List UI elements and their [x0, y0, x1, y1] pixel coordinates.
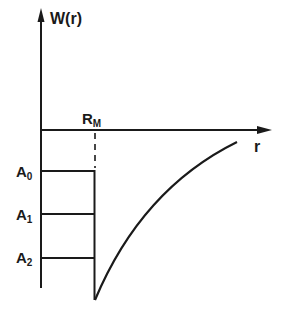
a1-label: A1 — [16, 206, 33, 225]
potential-well-diagram: W(r) r RM A0 A1 A2 — [0, 0, 282, 313]
y-axis-label: W(r) — [50, 10, 82, 27]
potential-curve — [95, 142, 237, 300]
rm-label: RM — [82, 110, 101, 129]
a2-label: A2 — [16, 249, 33, 268]
a0-label: A0 — [16, 163, 33, 182]
y-axis-arrow-icon — [38, 8, 45, 22]
x-axis-arrow-icon — [257, 126, 272, 134]
x-axis-label: r — [254, 138, 260, 155]
